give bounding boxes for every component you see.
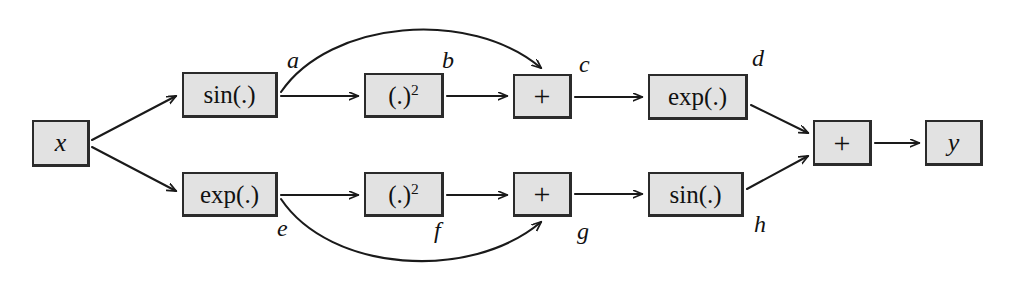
edge-label-d: d bbox=[752, 46, 764, 70]
node-exp2[interactable]: exp(.) bbox=[182, 172, 278, 217]
node-plus2[interactable]: + bbox=[513, 172, 572, 217]
edge-sin2-to-plus3 bbox=[747, 156, 808, 189]
edge-label-f: f bbox=[434, 218, 441, 242]
edge-label-b: b bbox=[442, 48, 454, 72]
edge-label-c: c bbox=[579, 52, 590, 76]
edge-label-h: h bbox=[754, 212, 766, 236]
edge-label-a: a bbox=[287, 48, 299, 72]
node-label-plus1: + bbox=[534, 81, 551, 111]
node-label-x: x bbox=[55, 130, 67, 156]
node-exponent-sq2: 2 bbox=[411, 179, 419, 196]
node-sq2[interactable]: (.)2 bbox=[364, 172, 444, 217]
node-exp1[interactable]: exp(.) bbox=[648, 74, 748, 120]
node-label-exp2: exp(.) bbox=[200, 182, 259, 207]
node-label-y: y bbox=[948, 130, 960, 156]
edge-x-to-sin1 bbox=[92, 96, 176, 140]
edge-x-to-exp2 bbox=[92, 147, 176, 191]
edge-exp1-to-plus3 bbox=[751, 105, 808, 133]
node-label-sq2: (.)2 bbox=[388, 182, 419, 207]
node-label-sin2: sin(.) bbox=[669, 182, 721, 207]
node-y[interactable]: y bbox=[925, 120, 983, 166]
node-label-exp1: exp(.) bbox=[668, 84, 727, 109]
node-sin1[interactable]: sin(.) bbox=[182, 72, 278, 118]
node-label-plus2: + bbox=[534, 179, 551, 209]
node-sin2[interactable]: sin(.) bbox=[648, 172, 744, 217]
node-plus1[interactable]: + bbox=[513, 74, 572, 119]
node-sq1[interactable]: (.)2 bbox=[364, 73, 444, 118]
edge-label-g: g bbox=[577, 219, 589, 243]
node-label-sin1: sin(.) bbox=[203, 82, 255, 107]
node-label-sq1: (.)2 bbox=[388, 83, 419, 108]
computational-graph-diagram: xsin(.)(.)2+exp(.)exp(.)(.)2+sin(.)+y ab… bbox=[0, 0, 1012, 286]
node-exponent-sq1: 2 bbox=[411, 80, 419, 97]
edge-label-e: e bbox=[277, 216, 288, 240]
node-plus3[interactable]: + bbox=[813, 120, 872, 166]
node-x[interactable]: x bbox=[32, 120, 90, 167]
node-label-plus3: + bbox=[834, 128, 851, 158]
